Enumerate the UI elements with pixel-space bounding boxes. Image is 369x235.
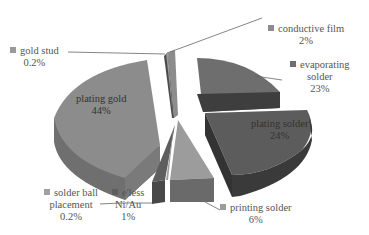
- label-value: 2%: [268, 35, 344, 47]
- label-value: 0.2%: [10, 57, 59, 69]
- label-text: evaporating: [300, 59, 350, 70]
- legend-swatch-solder-ball: [44, 189, 50, 195]
- label-printing-solder: printing solder 6%: [220, 202, 292, 226]
- label-text: plating solder: [251, 118, 308, 130]
- label-value: 6%: [220, 214, 292, 226]
- label-conductive-film: conductive film 2%: [268, 23, 344, 47]
- label-value: 44%: [76, 105, 126, 117]
- label-gold-stud: gold stud 0.2%: [10, 45, 59, 69]
- label-text: gold stud: [20, 45, 59, 56]
- label-eless-niau: e'less Ni/Au 1%: [112, 187, 144, 223]
- label-plating-gold: plating gold 44%: [76, 93, 126, 117]
- label-solder-ball-placement: solder ball placement 0.2%: [44, 187, 98, 223]
- legend-swatch-eless: [112, 189, 118, 195]
- label-text-2: solder: [290, 71, 350, 83]
- slice-plating-gold: [54, 60, 160, 200]
- label-value: 1%: [112, 211, 144, 223]
- label-text: e'less: [122, 187, 144, 198]
- label-text-2: Ni/Au: [112, 199, 144, 211]
- label-text: conductive film: [278, 23, 344, 34]
- label-text: plating gold: [76, 93, 126, 105]
- label-value: 0.2%: [44, 211, 98, 223]
- label-evaporating-solder: evaporating solder 23%: [290, 59, 350, 95]
- slice-evaporating-solder: [197, 58, 280, 112]
- legend-swatch-evaporating-solder: [290, 61, 296, 67]
- label-text: printing solder: [230, 202, 292, 213]
- legend-swatch-conductive-film: [268, 25, 274, 31]
- legend-swatch-printing-solder: [220, 204, 226, 210]
- label-value: 24%: [251, 130, 308, 142]
- label-text-2: placement: [44, 199, 98, 211]
- label-value: 23%: [290, 83, 350, 95]
- label-plating-solder: plating solder 24%: [251, 118, 308, 142]
- legend-swatch-gold-stud: [10, 47, 16, 53]
- label-text: solder ball: [54, 187, 98, 198]
- slice-conductive-film: [164, 50, 178, 118]
